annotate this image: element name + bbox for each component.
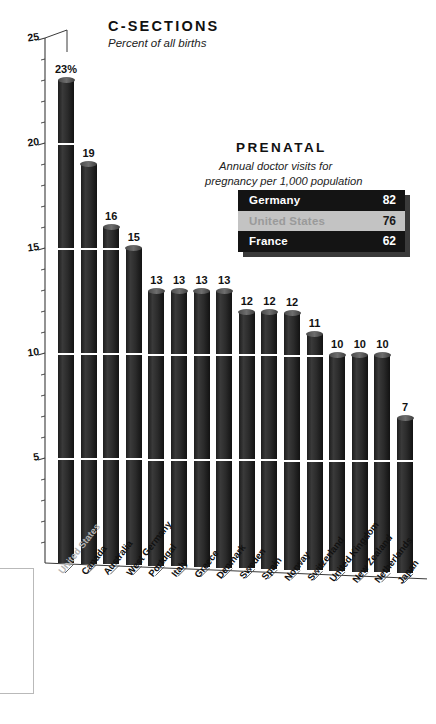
bar-cap xyxy=(125,245,142,251)
bar-cap xyxy=(103,224,120,230)
bar-cap xyxy=(148,288,165,294)
gridline xyxy=(216,459,232,461)
bar xyxy=(261,312,277,568)
bar-cap xyxy=(171,288,188,294)
gridline xyxy=(58,458,74,460)
gridline xyxy=(81,458,97,460)
bar-cap xyxy=(351,352,368,358)
prenatal-subtitle-line1: Annual doctor visits for xyxy=(219,160,332,172)
bar-value-label: 16 xyxy=(96,210,126,222)
gridline xyxy=(103,248,119,250)
bar-cap xyxy=(306,331,323,337)
chart-canvas: C-SECTIONS Percent of all births PRENATA… xyxy=(0,0,436,724)
prenatal-title: PRENATAL xyxy=(236,140,327,155)
gridline xyxy=(194,354,210,356)
bar-cap xyxy=(58,77,75,83)
bar xyxy=(284,313,300,570)
bar-value-label: 10 xyxy=(367,338,397,350)
gridline xyxy=(126,353,142,355)
y-axis-tick-label: 10 xyxy=(16,345,39,360)
gridline xyxy=(126,458,142,460)
bar xyxy=(81,164,97,563)
gridline xyxy=(216,354,232,356)
y-axis-tick-label: 25 xyxy=(16,30,39,45)
prenatal-table: Germany 82 United States 76 France 62 xyxy=(238,190,405,252)
bar-value-label: 12 xyxy=(277,296,307,308)
gridline xyxy=(103,458,119,460)
gridline xyxy=(374,460,390,462)
page-subtitle: Percent of all births xyxy=(108,37,206,49)
gridline xyxy=(239,459,255,461)
bar xyxy=(126,248,142,564)
bar xyxy=(216,291,232,567)
table-cell-country: Germany xyxy=(249,194,300,206)
gridline xyxy=(352,460,368,462)
gridline xyxy=(329,460,345,462)
table-row: Germany 82 xyxy=(238,190,405,211)
bar xyxy=(103,227,119,564)
gridline xyxy=(284,460,300,462)
y-axis-tick-label: 5 xyxy=(16,450,39,465)
gridline xyxy=(148,459,164,461)
gridline xyxy=(148,354,164,356)
bar-cap xyxy=(193,288,210,294)
bar-value-label: 11 xyxy=(300,317,330,329)
table-cell-value: 82 xyxy=(383,193,396,207)
gridline xyxy=(261,354,277,356)
gridline xyxy=(239,354,255,356)
page-edge-artifact xyxy=(0,568,34,694)
table-cell-value: 62 xyxy=(383,234,396,248)
gridline xyxy=(284,355,300,357)
table-row: United States 76 xyxy=(238,211,405,232)
prenatal-subtitle-line2: pregnancy per 1,000 population xyxy=(205,175,362,187)
table-cell-country: United States xyxy=(249,215,325,227)
bar-value-label: 19 xyxy=(74,147,104,159)
y-axis-tick-label: 20 xyxy=(16,135,39,150)
bar-cap xyxy=(374,352,391,358)
gridline xyxy=(171,459,187,461)
bar-value-label: 13 xyxy=(209,274,239,286)
bar xyxy=(194,291,210,567)
bar-value-label: 23% xyxy=(51,63,81,75)
bar-cap xyxy=(216,288,233,294)
table-row: France 62 xyxy=(238,231,405,252)
bar-value-label: 7 xyxy=(390,401,420,413)
gridline xyxy=(58,248,74,250)
gridline xyxy=(261,459,277,461)
page-title: C-SECTIONS xyxy=(108,18,219,34)
gridline xyxy=(58,143,74,145)
y-axis-tick-label: 15 xyxy=(16,240,39,255)
bar-cap xyxy=(397,415,414,421)
gridline xyxy=(103,353,119,355)
bar-cap xyxy=(329,352,346,358)
gridline xyxy=(307,355,323,357)
gridline xyxy=(81,248,97,250)
bar-cap xyxy=(261,309,278,315)
bar-value-label: 15 xyxy=(119,231,149,243)
bar-cap xyxy=(284,310,301,316)
gridline xyxy=(307,460,323,462)
bar xyxy=(239,312,255,568)
gridline xyxy=(58,353,74,355)
gridline xyxy=(194,459,210,461)
gridline xyxy=(81,353,97,355)
gridline xyxy=(171,354,187,356)
bar xyxy=(307,334,323,570)
bar-cap xyxy=(80,161,97,167)
table-cell-value: 76 xyxy=(383,214,396,228)
bar-cap xyxy=(238,309,255,315)
table-cell-country: France xyxy=(249,235,288,247)
gridline xyxy=(397,460,413,462)
bar xyxy=(58,80,74,563)
